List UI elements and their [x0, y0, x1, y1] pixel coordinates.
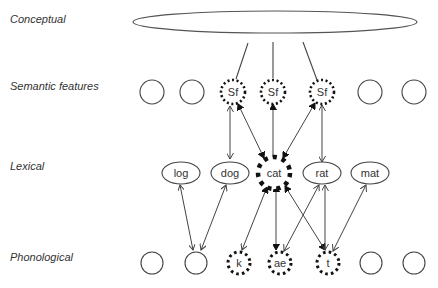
semantic-node-label: Sf: [268, 86, 279, 98]
semantic-node-active: Sf: [221, 80, 245, 104]
svg-text:rat: rat: [316, 167, 329, 179]
phonological-layer: k ae t: [141, 252, 425, 274]
semantic-node: [402, 80, 426, 104]
phonological-node: [141, 252, 163, 274]
phonological-node: [360, 252, 382, 274]
semantic-layer: Sf Sf Sf: [140, 80, 426, 104]
svg-text:dog: dog: [221, 167, 239, 179]
phonological-node: [185, 252, 207, 274]
svg-text:ae: ae: [274, 257, 286, 269]
lexical-node-rat: rat: [303, 162, 341, 184]
semantic-node: [140, 80, 164, 104]
lexical-layer: log dog cat rat mat: [162, 157, 389, 189]
semantic-node-label: Sf: [228, 86, 239, 98]
semantic-node-active: Sf: [310, 80, 334, 104]
network-diagram: Sf Sf Sf log dog cat rat: [0, 0, 438, 288]
semantic-node-active: Sf: [261, 80, 285, 104]
conceptual-links: [236, 42, 317, 80]
lexical-node-dog: dog: [211, 162, 249, 184]
conceptual-node: [133, 11, 417, 33]
lexical-phonological-links: [180, 185, 366, 251]
semantic-lexical-links: [230, 103, 322, 162]
lexical-node-log: log: [162, 162, 200, 184]
phonological-node: [403, 252, 425, 274]
semantic-node-label: Sf: [317, 86, 328, 98]
phonological-node-active: k: [228, 252, 250, 274]
semantic-node: [180, 80, 204, 104]
lexical-node-mat: mat: [351, 162, 389, 184]
phonological-node-active: t: [317, 252, 339, 274]
semantic-node: [358, 80, 382, 104]
svg-text:cat: cat: [267, 167, 282, 179]
phonological-node-active: ae: [269, 252, 291, 274]
svg-text:mat: mat: [361, 167, 379, 179]
svg-text:k: k: [236, 257, 242, 269]
svg-text:t: t: [326, 257, 329, 269]
svg-text:log: log: [174, 167, 189, 179]
lexical-node-cat-active: cat: [258, 157, 290, 189]
